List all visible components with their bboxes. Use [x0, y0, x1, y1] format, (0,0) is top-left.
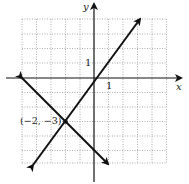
- intersection-label: (−2, −3): [20, 116, 61, 126]
- x-unit-tick-label: 1: [106, 81, 112, 91]
- y-axis-label: y: [83, 2, 89, 12]
- y-unit-tick-label: 1: [85, 58, 91, 68]
- lines: [22, 19, 140, 165]
- intersection-point: [63, 119, 67, 123]
- x-axis-label: x: [176, 82, 182, 92]
- axes: [6, 4, 181, 182]
- graph-canvas: [0, 0, 189, 184]
